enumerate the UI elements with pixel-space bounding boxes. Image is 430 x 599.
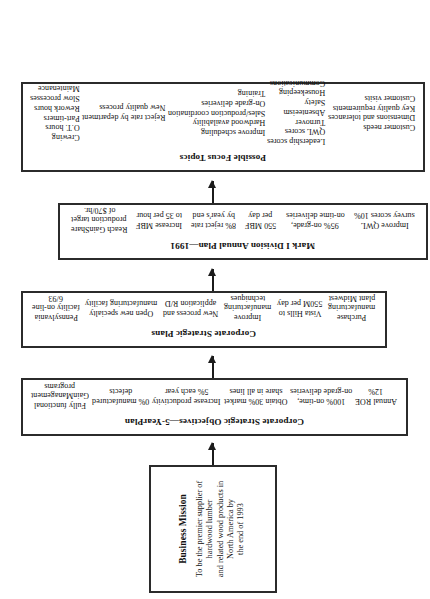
focus-topic-group: Reject rate by department New quality pr… [82, 103, 165, 122]
annual-plan-item: Increase MBF to 35 per hour [136, 210, 182, 229]
objectives-item: Annual ROE 12% [355, 386, 397, 405]
plans-item: Open new specialty manufacturing facilit… [85, 298, 157, 317]
node-corporate-strategic-objectives: Corporate Strategic Objectives—5-YearPla… [21, 378, 408, 436]
node-corporate-strategic-plans-title: Corporate Strategic Plans [29, 328, 378, 339]
node-possible-focus-topics-title: Possible Focus Topics [29, 152, 416, 163]
node-corporate-strategic-plans-columns: Pennsylvania facility on-line 6/93 Open … [29, 293, 378, 322]
focus-topic-group: Crewing O.T. hours Part-timers Rework ho… [30, 83, 80, 141]
plans-item: New process and application R/D [163, 298, 218, 317]
node-corporate-strategic-objectives-columns: Fully functional GainManagement programs… [29, 381, 399, 410]
plans-item: Pennsylvania facility on-line 6/93 [32, 293, 80, 322]
node-business-mission-title: Business Mission [178, 474, 189, 584]
arrow-plans-to-annual [212, 269, 214, 291]
node-possible-focus-topics-columns: Crewing O.T. hours Part-timers Rework ho… [29, 79, 416, 147]
focus-topic-group: Leadership scores QWL scores Turnover Ab… [267, 79, 325, 147]
focus-topic-group: Customer needs Dimensions and tolerances… [328, 93, 415, 132]
node-possible-focus-topics: Possible Focus Topics Crewing O.T. hours… [21, 82, 425, 172]
node-business-mission: Business Mission To be the premier suppl… [149, 465, 277, 593]
objectives-item: Obtain 30% market share in all lines [224, 386, 287, 405]
annual-plan-item: 8% reject rate by year's end [191, 210, 236, 229]
diagram-rotation-wrapper: Business Mission To be the premier suppl… [0, 0, 430, 599]
objectives-item: Fully functional GainManagement programs [31, 381, 89, 410]
objectives-item: Increase productivity 5% each year [152, 386, 221, 405]
plans-item: Improve manufacturing techniques [224, 293, 271, 322]
annual-plan-item: 550 MBF per day [245, 210, 276, 229]
node-mark-i-division-annual-plan-columns: Reach GainShare production target of $70… [66, 205, 419, 234]
node-mark-i-division-annual-plan: Mark I Division Annual Plan—1991 Reach G… [58, 203, 428, 260]
plans-item: Purchase manufacturing plant Midwest [328, 293, 375, 322]
annual-plan-item: Reach GainShare production target of $70… [71, 205, 127, 234]
focus-topic-group: Improve scheduling Hardwood availability… [168, 88, 265, 137]
objectives-item: 100% on-time, on-grade deliveries [290, 386, 352, 405]
arrow-mission-to-objectives [212, 443, 214, 465]
node-corporate-strategic-objectives-title: Corporate Strategic Objectives—5-YearPla… [29, 416, 399, 427]
annual-plan-item: Improve QWL survey scores 10% [354, 210, 415, 229]
node-mark-i-division-annual-plan-title: Mark I Division Annual Plan—1991 [66, 240, 419, 251]
arrow-objectives-to-plans [212, 356, 214, 378]
objectives-item: 0% manufactured defects [92, 386, 149, 405]
annual-plan-item: 95% on-grade, on-time deliveries [286, 210, 345, 229]
node-business-mission-body: To be the premier supplier of hardwood l… [195, 474, 247, 584]
arrow-annual-to-focus [212, 181, 214, 203]
flowchart-canvas: Business Mission To be the premier suppl… [0, 0, 430, 599]
node-corporate-strategic-plans: Corporate Strategic Plans Pennsylvania f… [21, 291, 387, 348]
plans-item: Vista Hills to 550M per day [277, 298, 322, 317]
